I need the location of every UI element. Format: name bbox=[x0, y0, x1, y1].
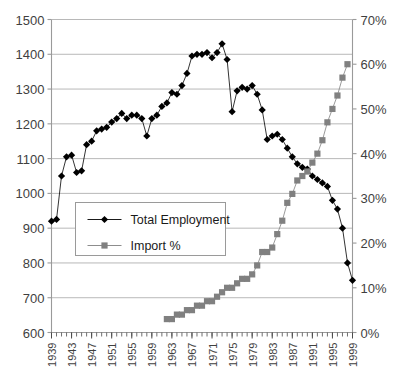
y-tick-label-left: 1200 bbox=[16, 117, 45, 132]
y-tick-label-right: 50% bbox=[361, 102, 387, 117]
data-point-marker bbox=[329, 106, 335, 112]
data-point-marker bbox=[339, 75, 345, 81]
data-point-marker bbox=[254, 262, 260, 268]
x-tick-label: 1975 bbox=[227, 343, 239, 367]
data-point-marker bbox=[289, 191, 295, 197]
data-point-marker bbox=[178, 82, 185, 89]
y-tick-label-left: 1100 bbox=[17, 152, 45, 167]
series-import-percent bbox=[164, 61, 351, 322]
data-point-marker bbox=[249, 271, 255, 277]
x-tick-label: 1979 bbox=[247, 343, 259, 367]
data-point-marker bbox=[329, 197, 336, 204]
data-point-marker bbox=[223, 56, 230, 63]
data-point-marker bbox=[269, 244, 275, 250]
data-point-marker bbox=[279, 218, 285, 224]
x-tick-label: 1943 bbox=[66, 343, 78, 367]
x-tick-label: 1983 bbox=[267, 343, 279, 367]
y-tick-label-left: 1500 bbox=[16, 13, 45, 28]
x-tick-label: 1959 bbox=[146, 343, 158, 367]
x-tick-label: 1951 bbox=[106, 343, 118, 367]
data-point-marker bbox=[349, 277, 356, 284]
chart-container: 6007008009001000110012001300140015000%10… bbox=[0, 0, 396, 384]
y-tick-label-left: 1400 bbox=[16, 47, 45, 62]
y-tick-label-right: 10% bbox=[361, 281, 387, 296]
data-point-marker bbox=[304, 168, 310, 174]
y-tick-label-right: 40% bbox=[361, 147, 387, 162]
y-tick-label-left: 800 bbox=[23, 256, 45, 271]
x-tick-label: 1947 bbox=[86, 343, 98, 367]
x-tick-label: 1955 bbox=[126, 343, 138, 367]
data-point-marker bbox=[334, 92, 340, 98]
x-tick-label: 1995 bbox=[327, 343, 339, 367]
data-point-marker bbox=[284, 200, 290, 206]
data-point-marker bbox=[183, 70, 190, 77]
data-point-marker bbox=[284, 145, 291, 152]
data-point-marker bbox=[309, 159, 315, 165]
y-tick-label-left: 700 bbox=[23, 291, 45, 306]
y-tick-label-left: 900 bbox=[23, 221, 45, 236]
data-point-marker bbox=[274, 231, 280, 237]
data-point-marker bbox=[344, 259, 351, 266]
data-point-marker bbox=[324, 119, 330, 125]
y-tick-label-left: 1000 bbox=[16, 186, 45, 201]
y-tick-label-right: 0% bbox=[361, 326, 380, 341]
y-tick-label-right: 30% bbox=[361, 191, 387, 206]
chart-plot: 6007008009001000110012001300140015000%10… bbox=[0, 0, 396, 384]
y-tick-label-right: 20% bbox=[361, 236, 387, 251]
x-tick-label: 1991 bbox=[307, 343, 319, 367]
y-tick-label-right: 60% bbox=[361, 57, 387, 72]
data-point-marker bbox=[143, 132, 150, 139]
data-point-marker bbox=[58, 172, 65, 179]
x-tick-label: 1939 bbox=[46, 343, 58, 367]
x-tick-label: 1971 bbox=[207, 343, 219, 367]
data-point-marker bbox=[319, 137, 325, 143]
legend-marker bbox=[101, 242, 107, 248]
legend-label: Import % bbox=[131, 239, 181, 253]
y-tick-label-left: 1300 bbox=[16, 82, 45, 97]
y-tick-label-left: 600 bbox=[23, 326, 45, 341]
data-point-marker bbox=[334, 205, 341, 212]
legend-label: Total Employment bbox=[131, 213, 231, 227]
data-point-marker bbox=[259, 106, 266, 113]
data-point-marker bbox=[229, 108, 236, 115]
x-tick-label: 1963 bbox=[166, 343, 178, 367]
data-point-marker bbox=[339, 225, 346, 232]
series-line bbox=[167, 64, 348, 319]
data-point-marker bbox=[314, 151, 320, 157]
x-tick-label: 1967 bbox=[186, 343, 198, 367]
y-tick-label-right: 70% bbox=[361, 13, 387, 28]
x-tick-label: 1999 bbox=[347, 343, 359, 367]
x-tick-label: 1987 bbox=[287, 343, 299, 367]
data-point-marker bbox=[344, 61, 350, 67]
data-point-marker bbox=[218, 40, 225, 47]
data-point-marker bbox=[289, 153, 296, 160]
data-point-marker bbox=[254, 91, 261, 98]
